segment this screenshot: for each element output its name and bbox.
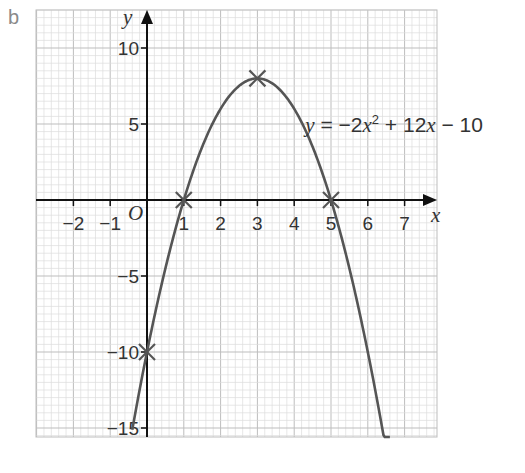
- grid-border: [36, 10, 437, 437]
- y-axis-label: y: [121, 5, 133, 29]
- x-tick-label: 7: [399, 213, 410, 234]
- y-axis-arrow-icon: [141, 10, 153, 24]
- y-tick-label: −5: [117, 266, 139, 287]
- x-tick-label: 4: [289, 213, 300, 234]
- equation-part: + 12: [379, 113, 426, 136]
- y-tick-label: 5: [128, 114, 139, 135]
- equation-part: = −2: [315, 113, 363, 136]
- x-tick-label: −2: [63, 213, 85, 234]
- x-tick-label: −1: [99, 213, 121, 234]
- origin-label: O: [128, 201, 143, 225]
- x-tick-label: 6: [363, 213, 374, 234]
- x-tick-label: 2: [215, 213, 226, 234]
- y-tick-label: 10: [118, 38, 139, 59]
- chart: x y O −2−11234567105−5−10−15 y = −2x2 + …: [0, 0, 525, 473]
- equation-part: 2: [372, 112, 379, 127]
- grid: [36, 10, 437, 437]
- equation-part: − 10: [436, 113, 483, 136]
- axes: x y O: [36, 5, 441, 437]
- x-axis-label: x: [430, 203, 441, 227]
- y-tick-label: −10: [107, 342, 139, 363]
- ticks: −2−11234567105−5−10−15: [63, 38, 410, 439]
- x-tick-label: 3: [252, 213, 263, 234]
- equation-annotation: y = −2x2 + 12x − 10: [303, 112, 483, 137]
- equation-part: y: [303, 113, 315, 137]
